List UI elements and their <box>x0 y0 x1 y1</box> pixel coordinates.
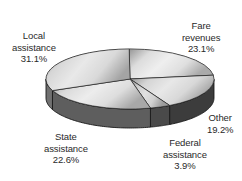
label-line: revenues <box>182 32 220 44</box>
label-line: Fare <box>182 20 220 32</box>
label-fare-revenues: Fare revenues 23.1% <box>182 20 220 55</box>
label-federal-assistance: Federal assistance 3.9% <box>163 137 207 172</box>
label-line: assistance <box>44 143 88 155</box>
label-local-assistance: Local assistance 31.1% <box>12 30 56 65</box>
label-value: 31.1% <box>12 53 56 65</box>
label-line: Local <box>12 30 56 42</box>
label-line: assistance <box>12 42 56 54</box>
label-value: 3.9% <box>163 160 207 172</box>
label-line: assistance <box>163 149 207 161</box>
label-line: State <box>44 131 88 143</box>
slice-side <box>150 105 169 127</box>
label-line: Other <box>207 112 233 124</box>
label-value: 23.1% <box>182 43 220 55</box>
label-line: Federal <box>163 137 207 149</box>
label-other: Other 19.2% <box>207 112 233 135</box>
label-state-assistance: State assistance 22.6% <box>44 131 88 166</box>
pie-slices <box>46 49 214 128</box>
label-value: 22.6% <box>44 154 88 166</box>
label-value: 19.2% <box>207 124 233 136</box>
